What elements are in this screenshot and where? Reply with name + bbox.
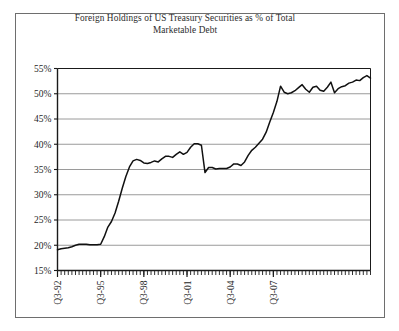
x-axis-tick-label: Q3-04 xyxy=(226,280,236,305)
x-axis-tick-label: Q3-07 xyxy=(269,280,279,305)
y-axis-tick-label: 45% xyxy=(34,114,52,124)
figure-page: Foreign Holdings of US Treasury Securiti… xyxy=(0,0,399,331)
data-series-group xyxy=(58,76,371,250)
gridlines-group xyxy=(58,69,371,246)
x-axis-tick-label: Q3-98 xyxy=(139,280,149,305)
x-axis-ticks-group: Q3-92Q3-95Q3-98Q3-01Q3-04Q3-07 xyxy=(53,271,279,305)
data-line-series xyxy=(58,76,371,250)
x-axis-tick-label: Q3-95 xyxy=(96,280,106,305)
y-axis-ticks-group: 15%20%25%30%35%40%45%50%55% xyxy=(34,64,57,276)
y-axis-tick-label: 35% xyxy=(34,165,52,175)
x-axis-tick-label: Q3-92 xyxy=(53,280,63,305)
y-axis-tick-label: 50% xyxy=(34,89,52,99)
y-axis-tick-label: 25% xyxy=(34,215,52,225)
y-axis-tick-label: 40% xyxy=(34,140,52,150)
y-axis-tick-label: 20% xyxy=(34,241,52,251)
line-chart-plot: 15%20%25%30%35%40%45%50%55% Q3-92Q3-95Q3… xyxy=(0,0,399,331)
x-axis-tick-label: Q3-01 xyxy=(183,280,193,305)
y-axis-tick-label: 30% xyxy=(34,190,52,200)
y-axis-tick-label: 15% xyxy=(34,266,52,276)
y-axis-tick-label: 55% xyxy=(34,64,52,74)
